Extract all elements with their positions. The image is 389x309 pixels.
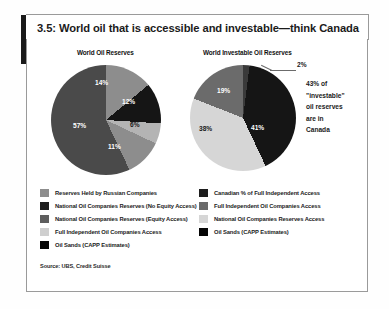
legend-swatch-icon bbox=[40, 215, 49, 223]
pie-chart-world-oil-reserves bbox=[51, 65, 161, 175]
legend-item: Full Independent Oil Companies Access bbox=[40, 226, 197, 239]
figure-title-bar: 3.5: World oil that is accessible and in… bbox=[26, 14, 369, 40]
legend-item-label: National Oil Companies Reserves (No Equi… bbox=[55, 203, 197, 209]
legend-item-label: Full Independent Oil Companies Access bbox=[55, 229, 162, 235]
legend-item: National Oil Companies Reserves (No Equi… bbox=[40, 199, 197, 212]
figure-container: 3.5: World oil that is accessible and in… bbox=[0, 0, 389, 309]
legend-item-label: Oil Sands (CAPP Estimates) bbox=[55, 242, 130, 248]
legend-item: Canadian % of Full Independent Access bbox=[199, 186, 324, 199]
legend-swatch-icon bbox=[40, 202, 49, 210]
legend-item: Full Independent Oil Companies Access bbox=[199, 199, 324, 212]
callout-line: oil reserves bbox=[306, 101, 366, 113]
callout-leader-line bbox=[270, 70, 296, 71]
pie-chart-world-investable-oil-reserves bbox=[190, 65, 296, 171]
legend-swatch-icon bbox=[40, 241, 49, 249]
callout-line: are in bbox=[306, 113, 366, 125]
pie-slice-label: 2% bbox=[297, 61, 307, 68]
legend-swatch-icon bbox=[199, 228, 208, 236]
callout-line: Canada bbox=[306, 124, 366, 136]
legend-swatch-icon bbox=[40, 189, 49, 197]
legend-item-label: Canadian % of Full Independent Access bbox=[214, 190, 320, 196]
legend-swatch-icon bbox=[199, 202, 208, 210]
figure-panel: World Oil Reserves World Investable Oil … bbox=[26, 39, 368, 292]
legend-item: National Oil Companies Reserves (Equity … bbox=[40, 212, 197, 225]
legend-item-label: Oil Sands (CAPP Estimates) bbox=[214, 229, 289, 235]
legend-item-label: Full Independent Oil Companies Access bbox=[214, 203, 321, 209]
legend-item: Oil Sands (CAPP Estimates) bbox=[199, 226, 324, 239]
callout-line: 43% of bbox=[306, 78, 366, 90]
legend-item: Oil Sands (CAPP Estimates) bbox=[40, 239, 197, 252]
chart-title-left: World Oil Reserves bbox=[77, 49, 134, 56]
legend-right: Canadian % of Full Independent AccessFul… bbox=[199, 186, 324, 239]
legend-swatch-icon bbox=[199, 215, 208, 223]
legend-item: Reserves Held by Russian Companies bbox=[40, 186, 197, 199]
legend-item: National Oil Companies Reserves Access bbox=[199, 212, 324, 225]
callout-line: "investable" bbox=[306, 90, 366, 102]
chart-title-right: World Investable Oil Reserves bbox=[203, 49, 292, 56]
source-note: Source: UBS, Credit Suisse bbox=[40, 263, 110, 269]
legend-left: Reserves Held by Russian CompaniesNation… bbox=[40, 186, 197, 252]
canada-callout: 43% of "investable" oil reserves are in … bbox=[306, 78, 366, 136]
legend-item-label: National Oil Companies Reserves (Equity … bbox=[55, 216, 188, 222]
legend-item-label: National Oil Companies Reserves Access bbox=[214, 216, 324, 222]
legend-swatch-icon bbox=[199, 189, 208, 197]
page-title: 3.5: World oil that is accessible and in… bbox=[37, 22, 359, 34]
legend-item-label: Reserves Held by Russian Companies bbox=[55, 190, 157, 196]
legend-swatch-icon bbox=[40, 228, 49, 236]
